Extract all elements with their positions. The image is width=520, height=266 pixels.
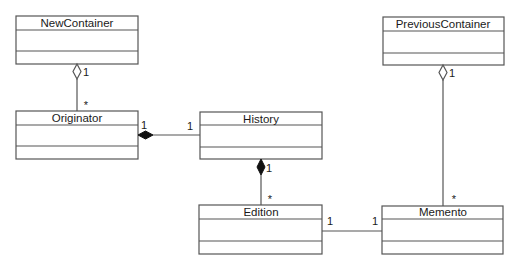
multiplicity-label: 1	[266, 162, 272, 174]
class-name: PreviousContainer	[396, 18, 491, 30]
multiplicity-label: *	[268, 193, 273, 205]
class-originator[interactable]: Originator	[16, 111, 138, 159]
class-edition[interactable]: Edition	[199, 205, 322, 254]
multiplicity-label: 1	[83, 66, 89, 78]
multiplicity-label: 1	[327, 215, 333, 227]
class-memento[interactable]: Memento	[382, 206, 503, 254]
class-name: Edition	[243, 206, 278, 218]
association-newcontainer-originator[interactable]: 1 *	[73, 64, 89, 111]
multiplicity-label: 1	[449, 67, 455, 79]
class-name: NewContainer	[41, 17, 114, 29]
multiplicity-label: 1	[141, 119, 147, 131]
multiplicity-label: *	[452, 193, 457, 205]
composition-diamond-icon	[138, 131, 153, 139]
uml-class-diagram: NewContainer Originator History Edition …	[0, 0, 520, 266]
class-name: History	[243, 113, 279, 125]
multiplicity-label: *	[84, 99, 89, 111]
class-name: Memento	[419, 206, 467, 218]
multiplicity-label: 1	[372, 215, 378, 227]
aggregation-diamond-icon	[439, 65, 447, 80]
association-previouscontainer-memento[interactable]: 1 *	[439, 65, 457, 206]
aggregation-diamond-icon	[73, 64, 81, 79]
composition-diamond-icon	[257, 159, 265, 175]
association-originator-history[interactable]: 1 1	[138, 119, 200, 139]
class-name: Originator	[52, 112, 103, 124]
class-history[interactable]: History	[200, 112, 322, 159]
association-edition-memento[interactable]: 1 1	[322, 215, 382, 231]
association-history-edition[interactable]: 1 *	[257, 159, 273, 205]
multiplicity-label: 1	[187, 120, 193, 132]
class-previous-container[interactable]: PreviousContainer	[383, 17, 504, 65]
class-new-container[interactable]: NewContainer	[16, 16, 138, 64]
